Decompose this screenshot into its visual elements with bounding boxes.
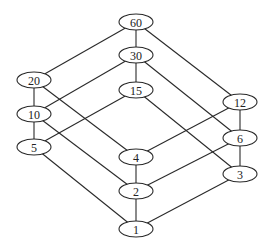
- nodes-layer: 603015201051263421: [17, 14, 257, 237]
- node-label: 4: [133, 151, 139, 165]
- node-4: 4: [119, 149, 153, 165]
- edge-12-4: [136, 102, 240, 157]
- hasse-diagram: 603015201051263421: [0, 0, 273, 247]
- node-10: 10: [17, 106, 51, 122]
- node-label: 10: [28, 108, 40, 122]
- node-60: 60: [119, 14, 153, 30]
- node-15: 15: [119, 82, 153, 98]
- node-1: 1: [119, 221, 153, 237]
- node-label: 5: [31, 141, 37, 155]
- edge-30-10: [34, 55, 136, 114]
- edge-10-2: [34, 114, 136, 191]
- node-5: 5: [17, 139, 51, 155]
- node-3: 3: [223, 166, 257, 182]
- node-label: 20: [28, 74, 40, 88]
- edge-6-2: [136, 138, 240, 191]
- edge-3-1: [136, 174, 240, 229]
- node-label: 12: [234, 96, 246, 110]
- node-label: 60: [130, 16, 142, 30]
- node-12: 12: [223, 94, 257, 110]
- edge-30-6: [136, 55, 240, 138]
- node-label: 15: [130, 84, 142, 98]
- node-label: 2: [133, 185, 139, 199]
- edge-15-5: [34, 90, 136, 147]
- node-label: 1: [133, 223, 139, 237]
- node-label: 6: [237, 132, 243, 146]
- node-label: 3: [237, 168, 243, 182]
- node-2: 2: [119, 183, 153, 199]
- node-30: 30: [119, 47, 153, 63]
- node-20: 20: [17, 72, 51, 88]
- node-label: 30: [130, 49, 142, 63]
- node-6: 6: [223, 130, 257, 146]
